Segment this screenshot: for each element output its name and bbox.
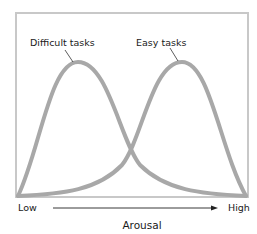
difficult-leader-line [65,50,73,62]
easy-tasks-label: Easy tasks [136,37,186,48]
x-axis-title: Arousal [122,219,161,231]
arrow-head-icon [211,206,218,211]
low-label: Low [18,202,37,213]
difficult-tasks-curve [18,62,246,196]
easy-tasks-curve [18,62,246,196]
high-label: High [228,202,250,213]
difficult-tasks-label: Difficult tasks [30,37,95,48]
yerkes-dodson-chart: Difficult tasks Easy tasks Low High Arou… [0,0,257,234]
easy-leader-line [170,48,178,61]
